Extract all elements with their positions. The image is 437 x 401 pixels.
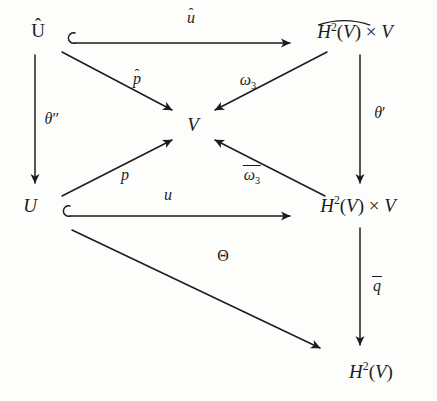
edge-u-to-h2v	[72, 230, 320, 348]
edge-label-theta-upper-text: Θ	[217, 247, 229, 264]
commutative-diagram: Uˆ H2(V) × V V U H2(V) × V H2(V) uˆ pˆ ω…	[0, 0, 437, 401]
edge-u-to-v	[62, 140, 172, 196]
edge-h2vhat-to-v	[215, 52, 327, 110]
edge-label-u: u	[164, 187, 172, 203]
edge-label-q-text: q	[373, 277, 381, 294]
edge-label-u-hat-text: u	[187, 10, 195, 26]
edge-u-hat-to-h2vhat	[68, 33, 290, 43]
node-h2v-hat-times-v: H2(V) × V	[317, 19, 393, 41]
node-u-label: U	[23, 195, 37, 216]
edge-label-q-bar: q	[373, 276, 381, 294]
node-u: U	[23, 196, 37, 215]
overline-accent-icon: ω3	[244, 165, 260, 183]
overline-accent-icon: q	[373, 276, 381, 294]
node-h2v: H2(V)	[349, 362, 393, 381]
edge-u-hat-to-v	[62, 52, 172, 110]
edge-u-to-h2v-times-v	[63, 206, 290, 216]
edge-h2vtimesv-to-v	[215, 140, 325, 196]
node-u-hat-label: U	[31, 21, 45, 40]
edge-label-theta-upper: Θ	[217, 248, 229, 264]
edge-label-u-text: u	[164, 186, 172, 203]
node-h2v-times-v: H2(V) × V	[320, 196, 396, 215]
node-u-hat: Uˆ	[31, 21, 45, 40]
edge-label-u-hat: uˆ	[187, 10, 195, 26]
edge-label-theta-double-prime: θ″	[45, 111, 60, 127]
edge-label-omega3-bar: ω3	[244, 165, 260, 183]
widehat-group: H2(V)	[317, 19, 361, 41]
edge-label-omega3: ω3	[240, 72, 256, 88]
edge-label-p-hat: pˆ	[133, 71, 141, 87]
node-v-center-label: V	[187, 114, 199, 135]
edge-label-p: p	[121, 167, 129, 183]
node-v-center: V	[187, 115, 199, 134]
edge-label-p-text: p	[121, 166, 129, 183]
edge-label-p-hat-text: p	[133, 71, 141, 87]
edge-label-theta-prime: θ′	[374, 105, 386, 121]
